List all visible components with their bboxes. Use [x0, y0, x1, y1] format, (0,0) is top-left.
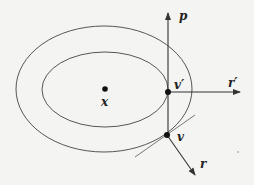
label-v-prime: v′ — [174, 78, 185, 92]
v-point — [164, 132, 170, 138]
label-p: p — [179, 9, 188, 23]
v-prime-point — [165, 89, 171, 95]
center-point — [102, 86, 108, 92]
speck — [237, 151, 238, 152]
label-x: x — [100, 95, 109, 109]
label-v: v — [177, 130, 185, 144]
label-r: r — [200, 157, 208, 171]
ellipse-diagram: x p v′ r′ v r — [0, 0, 254, 185]
diagram-canvas: x p v′ r′ v r — [0, 0, 254, 185]
label-r-prime: r′ — [228, 76, 238, 90]
